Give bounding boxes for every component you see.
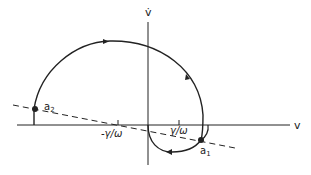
vdot-axis-label: v̇ — [145, 6, 152, 19]
point-a2 — [32, 106, 38, 112]
arrow-icon — [103, 39, 109, 44]
arrow-icon — [166, 149, 172, 155]
pos-gamma-omega-label: γ/ω — [170, 125, 188, 136]
phase-plane-diagram: v v̇ a2 a1 -γ/ω γ/ω — [0, 0, 311, 175]
a2-label: a2 — [44, 101, 55, 114]
point-a1 — [198, 137, 204, 143]
v-axis-label: v — [294, 119, 301, 132]
a1-label: a1 — [200, 145, 211, 158]
neg-gamma-omega-label: -γ/ω — [101, 128, 122, 139]
